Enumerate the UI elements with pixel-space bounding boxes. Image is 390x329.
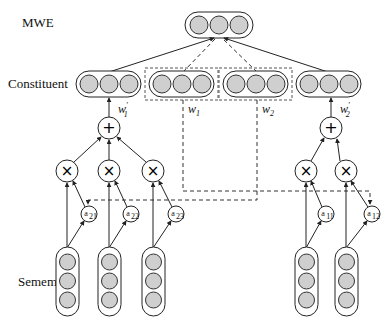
weight-w1: w1	[188, 102, 200, 118]
product-node-left-1: ×	[56, 160, 78, 182]
constituent-vector-1	[76, 71, 141, 97]
sememe-vector-right-1	[295, 247, 318, 316]
svg-text:×: ×	[103, 162, 116, 180]
attention-a21: a 21	[81, 206, 97, 222]
svg-text:a: a	[84, 209, 88, 218]
route-w2-to-a21	[88, 100, 257, 204]
svg-text:×: ×	[300, 162, 313, 180]
mwe-label: MWE	[22, 15, 54, 30]
constituent-label: Constituent	[8, 76, 68, 91]
sememe-vector-left-3	[142, 247, 165, 316]
product-node-left-2: ×	[98, 160, 120, 182]
svg-text:+: +	[324, 118, 337, 137]
sememe-vector-left-2	[98, 247, 121, 316]
product-node-right-1: ×	[295, 160, 317, 182]
svg-text:×: ×	[61, 162, 74, 180]
constituent-vector-3	[223, 71, 288, 97]
svg-text:×: ×	[147, 162, 160, 180]
sum-node-right: +	[320, 117, 342, 139]
svg-text:×: ×	[340, 162, 353, 180]
sememe-vector-left-1	[56, 247, 79, 316]
product-node-left-3: ×	[142, 160, 164, 182]
product-node-right-2: ×	[335, 160, 357, 182]
attention-a22: a 22	[123, 206, 139, 222]
svg-text:a: a	[321, 209, 325, 218]
constituent-vector-2	[149, 71, 214, 97]
mwe-vector	[185, 12, 253, 38]
svg-text:23: 23	[176, 212, 184, 221]
weight-w1-prime: w′1	[118, 101, 128, 119]
attention-a23: a 23	[168, 206, 184, 222]
mwe-sememe-diagram: MWE Constituent Sememe w′1 w	[0, 0, 390, 329]
svg-text:a: a	[367, 209, 371, 218]
constituent-vector-4	[296, 71, 361, 97]
sememe-vector-right-2	[335, 247, 358, 316]
svg-text:21: 21	[89, 212, 97, 221]
svg-text:a: a	[126, 209, 130, 218]
svg-text:12: 12	[372, 212, 380, 221]
weight-w2: w2	[262, 102, 274, 118]
edge-c1-mwe	[109, 38, 214, 72]
weight-w2-prime: w′2	[340, 101, 350, 119]
attention-a12: a 12	[364, 206, 380, 222]
attention-a11: a 11	[318, 206, 334, 222]
svg-text:+: +	[102, 118, 115, 137]
svg-text:11: 11	[326, 212, 334, 221]
sum-node-left: +	[98, 117, 120, 139]
svg-text:22: 22	[131, 212, 139, 221]
svg-text:a: a	[171, 209, 175, 218]
